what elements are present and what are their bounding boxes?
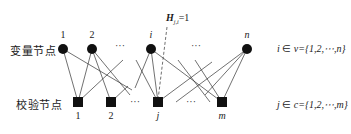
check-node-1: [73, 97, 83, 107]
annotation-dashed-line: [158, 27, 167, 100]
top-ellipsis-2: ···: [191, 40, 201, 51]
variable-node-label-i: i: [150, 29, 153, 40]
edge-annotation-value: =1: [179, 12, 190, 23]
variable-node-n: [242, 44, 252, 54]
check-node-label-1: 1: [76, 110, 81, 121]
variable-set-body: v={1,2,⋯,n}: [294, 43, 346, 54]
bottom-ellipsis-2: ···: [186, 96, 196, 107]
variable-node-label-2: 2: [90, 29, 95, 40]
edge-vn-cm: [222, 49, 247, 102]
variable-node-label-n: n: [245, 29, 250, 40]
edge-v2-partial: [92, 49, 130, 95]
check-node-label-j: j: [157, 110, 160, 121]
variable-set-rel: ∈: [280, 43, 294, 54]
edge-cj-partial: [158, 62, 212, 102]
bottom-ellipsis-1: ···: [130, 96, 140, 107]
check-node-j: [153, 97, 163, 107]
check-set-rel: ∈: [280, 99, 294, 110]
check-node-label-m: m: [218, 110, 225, 121]
edge-annotation: Hj,i=1: [166, 12, 189, 25]
variable-node-i: [146, 44, 156, 54]
check-nodes: [73, 97, 227, 107]
check-nodes-label: 校验节点: [16, 96, 62, 112]
check-set-body: c={1,2,⋯,m}: [294, 99, 348, 110]
variable-nodes-label: 变量节点: [10, 42, 56, 58]
edge-vn-partial-2: [205, 49, 247, 95]
tanner-graph: 变量节点 校验节点 1 2 i n 1 2 j m ··· ··· ··· ··…: [0, 0, 351, 134]
variable-node-2: [87, 44, 97, 54]
check-set-definition: j ∈ c={1,2,⋯,m}: [277, 99, 348, 110]
check-node-2: [106, 97, 116, 107]
variable-node-1: [58, 44, 68, 54]
variable-set-definition: i ∈ v={1,2,⋯,n}: [277, 43, 345, 54]
variable-node-label-1: 1: [61, 29, 66, 40]
edge-v2-c1: [78, 49, 92, 102]
edge-vi-cj: [151, 49, 158, 102]
edge-vi-partial-left: [135, 49, 151, 88]
check-node-m: [217, 97, 227, 107]
top-ellipsis-1: ···: [115, 40, 125, 51]
check-node-label-2: 2: [109, 110, 114, 121]
variable-nodes: [58, 44, 252, 54]
edges: [63, 49, 247, 102]
edge-annotation-symbol: H: [166, 12, 174, 23]
